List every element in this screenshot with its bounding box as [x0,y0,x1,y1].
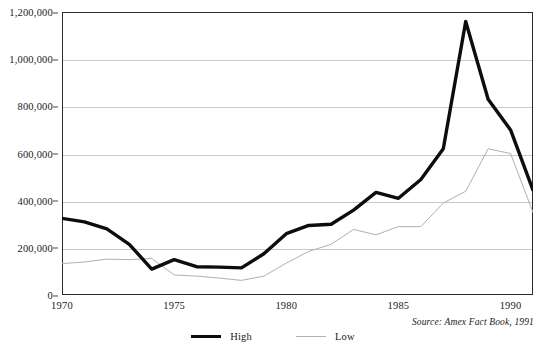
legend-item-low[interactable]: Low [296,331,355,342]
legend-swatch-high-icon [191,335,221,338]
y-tick-mark [53,154,58,155]
y-tick-label: 400,000 [17,195,53,206]
y-tick-label: 1,200,000 [9,7,53,18]
gridline [63,155,532,156]
legend-item-high[interactable]: High [191,331,252,342]
y-tick-mark [53,12,58,13]
y-tick-mark [53,201,58,202]
y-tick-mark [53,59,58,60]
y-tick-mark [53,106,58,107]
y-tick-label: 1,000,000 [9,54,53,65]
chart-container: 1,200,0001,000,000800,000600,000400,0002… [0,0,546,354]
y-tick-label: 600,000 [17,148,53,159]
y-tick-label: 0 [48,290,53,301]
legend-label-low: Low [335,331,355,342]
x-tick-label: 1990 [500,300,522,311]
x-tick-label: 1975 [163,300,185,311]
y-tick-label: 800,000 [17,101,53,112]
gridline [63,249,532,250]
y-tick-label: 200,000 [17,242,53,253]
legend-swatch-low-icon [296,336,326,337]
gridline [63,202,532,203]
plot-area [62,12,533,295]
x-tick-label: 1980 [275,300,297,311]
source-note: Source: Amex Fact Book, 1991 [412,317,534,327]
x-tick-label: 1970 [51,300,73,311]
chart-legend: High Low [0,331,546,342]
x-tick-label: 1985 [388,300,410,311]
gridline [63,60,532,61]
y-tick-mark [53,295,58,296]
y-axis: 1,200,0001,000,000800,000600,000400,0002… [0,0,57,283]
y-tick-mark [53,248,58,249]
gridline [63,107,532,108]
legend-label-high: High [230,331,252,342]
